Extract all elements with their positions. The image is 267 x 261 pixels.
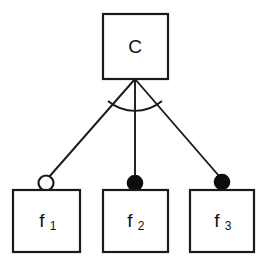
mandatory-marker-feature-2[interactable]	[128, 176, 143, 191]
node-feature-2-label-subscript: 2	[138, 219, 145, 233]
node-feature-3[interactable]: f 3	[190, 190, 254, 252]
edge-root-to-feature-1	[49, 79, 135, 177]
node-concept[interactable]: C	[103, 14, 168, 79]
node-feature-3-label-subscript: 3	[225, 219, 232, 233]
node-feature-1-label: f	[39, 210, 45, 231]
mandatory-marker-feature-3[interactable]	[215, 175, 230, 190]
marker-group	[39, 175, 230, 191]
edge-root-to-feature-3	[135, 79, 219, 176]
node-feature-3-label: f	[214, 210, 220, 231]
node-feature-2-label: f	[127, 210, 133, 231]
optional-marker-feature-1[interactable]	[39, 176, 54, 191]
node-feature-2[interactable]: f 2	[103, 190, 168, 252]
edge-group	[49, 79, 219, 177]
node-feature-1[interactable]: f 1	[13, 190, 80, 252]
node-feature-3-box[interactable]	[190, 190, 254, 252]
feature-diagram-canvas: C f 1 f 2 f 3	[0, 0, 267, 261]
node-feature-1-box[interactable]	[13, 190, 80, 252]
node-concept-label: C	[128, 36, 142, 57]
node-feature-2-box[interactable]	[103, 190, 168, 252]
node-feature-1-label-subscript: 1	[50, 219, 57, 233]
feature-diagram-svg: C f 1 f 2 f 3	[0, 0, 267, 261]
